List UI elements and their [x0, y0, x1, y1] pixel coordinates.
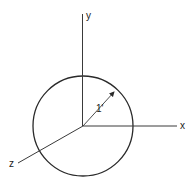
z-axis [18, 126, 83, 163]
radius-label: 1' [96, 103, 104, 114]
sphere-axes-diagram: y x z 1' [0, 0, 196, 185]
x-axis-label: x [180, 120, 185, 131]
z-axis-label: z [9, 158, 14, 169]
y-axis-label: y [86, 10, 91, 21]
